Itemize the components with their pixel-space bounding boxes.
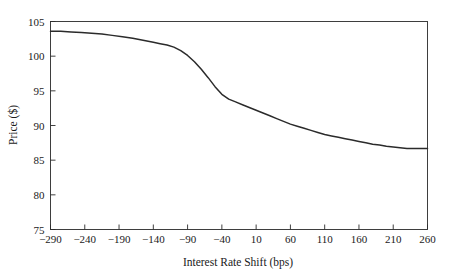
y-tick-label: 95 [34, 85, 46, 97]
figure-canvas: 7580859095100105 −290−240−190−140−90−401… [0, 0, 455, 280]
x-tick-label: 260 [419, 233, 436, 245]
x-tick-label: −40 [213, 233, 231, 245]
price-vs-rate-shift-chart: 7580859095100105 −290−240−190−140−90−401… [0, 0, 455, 280]
y-tick-label: 105 [28, 16, 45, 28]
x-tick-label: −140 [142, 233, 165, 245]
x-axis-title: Interest Rate Shift (bps) [183, 256, 293, 269]
chart-page: 7580859095100105 −290−240−190−140−90−401… [0, 0, 455, 280]
x-tick-label: −90 [179, 233, 197, 245]
y-tick-label: 80 [34, 189, 46, 201]
x-tick-label: −290 [39, 233, 62, 245]
x-tick-label: −240 [73, 233, 96, 245]
y-axis-title: Price ($) [7, 105, 20, 145]
x-tick-label: −190 [108, 233, 131, 245]
y-tick-label: 90 [34, 120, 46, 132]
y-tick-label: 100 [28, 50, 45, 62]
y-tick-label: 85 [34, 154, 46, 166]
x-tick-label: 60 [285, 233, 297, 245]
x-tick-label: 110 [317, 233, 334, 245]
x-tick-label: 160 [351, 233, 368, 245]
x-tick-label: 210 [385, 233, 402, 245]
x-tick-label: 10 [251, 233, 263, 245]
